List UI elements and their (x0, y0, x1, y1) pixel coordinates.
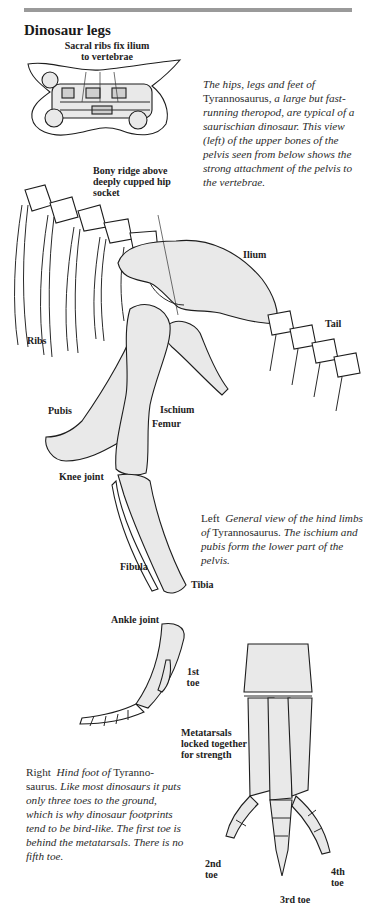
hind-limb-caption-roman1: Tyrannosaurus. (212, 526, 281, 538)
label-second-toe-line2: toe (205, 869, 221, 880)
label-knee-joint: Knee joint (59, 471, 104, 482)
label-ilium: Ilium (243, 249, 266, 260)
second-toe (226, 796, 258, 838)
side-foot-illustration (70, 620, 210, 730)
label-bony-ridge-line3: socket (93, 187, 203, 198)
label-fibula: Fibula (120, 561, 148, 572)
label-tibia: Tibia (191, 579, 214, 590)
label-bony-ridge: Bony ridge above deeply cupped hip socke… (93, 165, 203, 198)
third-toe (270, 800, 292, 876)
label-sacral-ribs-line1: Sacral ribs fix ilium (52, 40, 162, 51)
intro-caption-part2: Tyrannosaurus, (203, 92, 272, 104)
label-metatarsals-line2: locked together (181, 738, 261, 749)
metatarsal-right (288, 698, 312, 796)
hind-foot-caption-italic1: Hind foot of (56, 766, 110, 778)
label-third-toe: 3rd toe (280, 894, 310, 905)
label-second-toe-line1: 2nd (205, 858, 221, 869)
label-sacral-ribs-line2: to vertebrae (52, 51, 162, 62)
page-title: Dinosaur legs (24, 22, 111, 39)
label-pubis: Pubis (48, 405, 72, 416)
label-femur: Femur (152, 418, 181, 429)
label-fourth-toe-line1: 4th (331, 866, 345, 877)
pelvis-underside-illustration (20, 58, 185, 140)
hind-foot-caption: Right Hind foot of Tyranno-saurus. Like … (26, 765, 184, 863)
hind-foot-caption-italic2: Like most dinosaurs it puts only three t… (26, 780, 183, 862)
ischium-bone (165, 321, 228, 395)
label-bony-ridge-line1: Bony ridge above (93, 165, 203, 176)
label-fourth-toe-line2: toe (331, 877, 345, 888)
hind-limb-caption: Left General view of the hind limbs of T… (201, 511, 366, 567)
fourth-toe (292, 796, 330, 854)
top-rule (24, 8, 352, 12)
hind-foot-illustration (200, 640, 360, 880)
label-tail: Tail (325, 318, 341, 329)
label-metatarsals-line1: Metatarsals (181, 727, 261, 738)
hind-foot-caption-lead: Right (26, 766, 51, 778)
label-ribs: Ribs (27, 335, 46, 346)
label-fourth-toe: 4th toe (331, 866, 345, 888)
label-metatarsals-line3: for strength (181, 749, 261, 760)
label-sacral-ribs: Sacral ribs fix ilium to vertebrae (52, 40, 162, 62)
tail-vertebrae (268, 311, 360, 411)
label-second-toe: 2nd toe (205, 858, 221, 880)
label-metatarsals: Metatarsals locked together for strength (181, 727, 261, 760)
label-bony-ridge-line2: deeply cupped hip (93, 176, 203, 187)
intro-caption: The hips, legs and feet of Tyrannosaurus… (203, 77, 363, 189)
intro-caption-part3: a large but fast-running theropod, are t… (203, 92, 354, 188)
label-ischium: Ischium (160, 404, 194, 415)
hind-limb-caption-lead: Left (201, 512, 220, 524)
intro-caption-part1: The hips, legs and feet of (203, 78, 315, 90)
